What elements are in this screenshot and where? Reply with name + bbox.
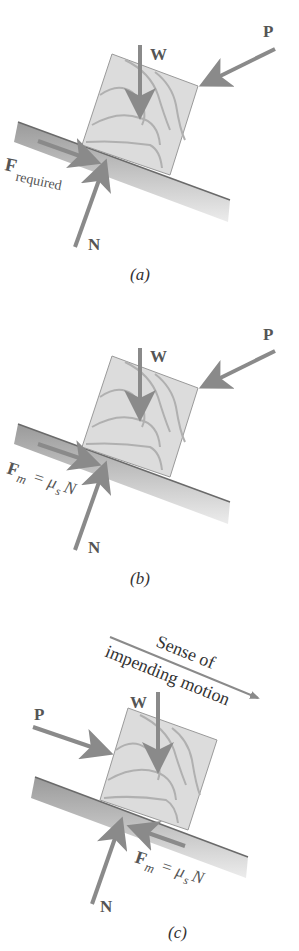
- panel-a: W P N F required (a): [0, 0, 299, 300]
- normal-label: N: [88, 235, 101, 254]
- friction-label-sub: required: [14, 169, 63, 193]
- weight-label: W: [150, 45, 167, 64]
- push-arrow: [33, 727, 106, 752]
- normal-label: N: [88, 538, 101, 557]
- push-label: P: [34, 705, 44, 724]
- caption-c: (c): [168, 923, 187, 942]
- friction-label: F m = μ s N: [4, 458, 81, 503]
- push-label: P: [263, 22, 273, 41]
- weight-label: W: [150, 347, 167, 366]
- friction-label-eq: = μ: [158, 856, 187, 882]
- friction-label-eq-end: N: [61, 477, 80, 499]
- normal-arrow: [92, 824, 120, 904]
- diagram-a: W P N F required (a): [0, 0, 299, 300]
- push-label: P: [263, 325, 273, 344]
- friction-label: F required: [2, 153, 66, 193]
- panel-b: W P N F m = μ s N (b): [0, 300, 299, 620]
- weight-label: W: [130, 693, 147, 712]
- normal-label: N: [100, 897, 113, 916]
- panel-c: Sense of impending motion W P N F m = μ …: [0, 620, 299, 951]
- diagram-c: Sense of impending motion W P N F m = μ …: [0, 620, 299, 951]
- friction-label-eq-end: N: [189, 866, 208, 888]
- diagram-b: W P N F m = μ s N (b): [0, 300, 299, 620]
- friction-label-eq: = μ: [30, 467, 59, 493]
- push-arrow: [206, 351, 275, 385]
- push-arrow: [206, 49, 275, 83]
- caption-a: (a): [130, 265, 150, 284]
- caption-b: (b): [130, 569, 150, 588]
